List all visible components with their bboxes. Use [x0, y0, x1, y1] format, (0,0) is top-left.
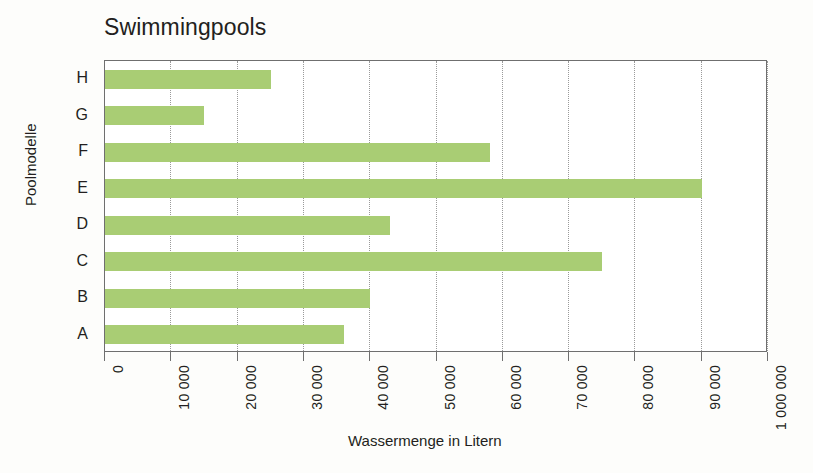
- x-axis-tick-mark: [436, 352, 437, 361]
- y-axis-tick-labels: ABCDEFGH: [0, 0, 96, 473]
- gridline: [502, 61, 503, 351]
- gridline: [767, 61, 768, 351]
- bar-e: [105, 179, 702, 198]
- y-axis-tick-label-g: G: [76, 106, 88, 124]
- y-axis-tick-label-h: H: [76, 69, 88, 87]
- y-axis-tick-label-c: C: [76, 252, 88, 270]
- bar-c: [105, 252, 602, 271]
- gridline: [436, 61, 437, 351]
- x-axis-tick-mark: [634, 352, 635, 361]
- x-axis-tick-label: 30 000: [309, 365, 325, 410]
- x-axis-tick-mark: [502, 352, 503, 361]
- gridline: [701, 61, 702, 351]
- bar-chart: Swimmingpools ABCDEFGH Poolmodelle Wasse…: [0, 0, 813, 473]
- gridline: [568, 61, 569, 351]
- y-axis-tick-label-d: D: [76, 215, 88, 233]
- x-axis-tick-label: 0: [110, 365, 126, 373]
- y-axis-title: Poolmodelle: [22, 123, 39, 206]
- x-axis-tick-label: 70 000: [574, 365, 590, 410]
- x-axis-tick-mark: [104, 352, 105, 361]
- bar-d: [105, 216, 390, 235]
- x-axis-tick-mark: [568, 352, 569, 361]
- x-axis-tick-mark: [237, 352, 238, 361]
- bar-g: [105, 106, 204, 125]
- x-axis-tick-mark: [303, 352, 304, 361]
- bar-a: [105, 325, 344, 344]
- chart-title: Swimmingpools: [104, 14, 266, 41]
- x-axis-tick-label: 90 000: [707, 365, 723, 410]
- bar-h: [105, 70, 271, 89]
- x-axis-tick-label: 60 000: [508, 365, 524, 410]
- y-axis-tick-label-b: B: [77, 288, 88, 306]
- plot-area: [104, 60, 767, 352]
- x-axis-tick-label: 40 000: [375, 365, 391, 410]
- y-axis-tick-label-f: F: [78, 142, 88, 160]
- gridline: [634, 61, 635, 351]
- x-axis-tick-label: 20 000: [243, 365, 259, 410]
- x-axis-tick-label: 80 000: [640, 365, 656, 410]
- x-axis-tick-label: 1 000 000: [773, 365, 789, 430]
- x-axis-tick-mark: [767, 352, 768, 361]
- x-axis-tick-mark: [369, 352, 370, 361]
- y-axis-tick-label-e: E: [77, 179, 88, 197]
- x-axis-tick-label: 10 000: [176, 365, 192, 410]
- bar-b: [105, 289, 370, 308]
- bar-f: [105, 143, 490, 162]
- y-axis-tick-label-a: A: [77, 325, 88, 343]
- x-axis-title: Wassermenge in Litern: [348, 432, 502, 449]
- x-axis-tick-mark: [701, 352, 702, 361]
- x-axis-tick-mark: [170, 352, 171, 361]
- x-axis-tick-label: 50 000: [442, 365, 458, 410]
